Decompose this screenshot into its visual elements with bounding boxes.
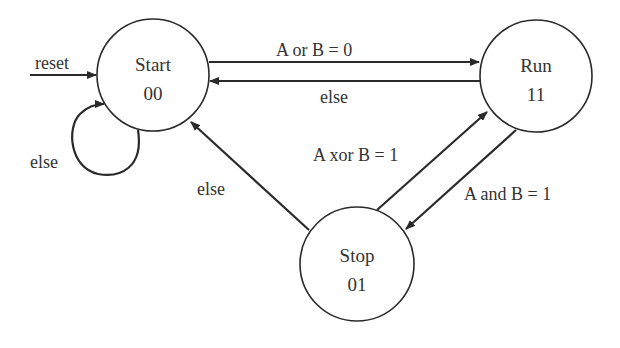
state-start-circle [97, 19, 209, 131]
state-start: Start 00 [97, 19, 209, 131]
transition-run-to-stop: A and B = 1 [406, 130, 551, 229]
state-run: Run 11 [480, 20, 592, 132]
transition-stop-to-start: else [191, 122, 309, 230]
transition-stop-to-run: A xor B = 1 [313, 112, 487, 210]
state-run-circle [480, 20, 592, 132]
state-run-code: 11 [527, 84, 545, 105]
stop-to-run-label: A xor B = 1 [313, 145, 398, 165]
start-to-run-label: A or B = 0 [276, 40, 352, 60]
run-to-start-label: else [320, 87, 348, 107]
transition-start-to-run: A or B = 0 [209, 40, 479, 62]
state-stop: Stop 01 [300, 207, 414, 321]
run-to-stop-arrow [406, 130, 516, 229]
stop-to-start-arrow [191, 122, 309, 230]
transition-run-to-start: else [210, 81, 480, 107]
state-start-code: 00 [144, 83, 163, 104]
reset-label: reset [35, 53, 69, 73]
transition-reset: reset [30, 53, 96, 75]
state-run-name: Run [520, 55, 552, 76]
start-self-loop-label: else [30, 152, 58, 172]
state-diagram: reset else A or B = 0 else A xor B = 1 A… [0, 0, 620, 348]
run-to-stop-label: A and B = 1 [464, 184, 551, 204]
stop-to-start-label: else [197, 179, 225, 199]
state-stop-code: 01 [348, 274, 367, 295]
state-start-name: Start [135, 54, 172, 75]
state-stop-name: Stop [340, 245, 375, 266]
